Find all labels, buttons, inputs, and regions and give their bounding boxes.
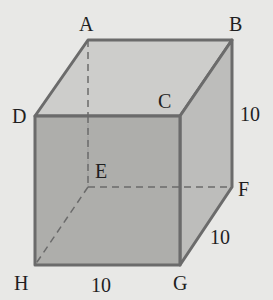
vertex-label-a: A: [79, 14, 93, 34]
vertex-label-e: E: [95, 161, 107, 181]
vertex-label-d: D: [12, 106, 26, 126]
vertex-label-g: G: [173, 273, 187, 293]
dimension-label-bf: 10: [240, 104, 260, 124]
dimension-label-gf: 10: [210, 227, 230, 247]
vertex-label-c: C: [158, 91, 171, 111]
cube-diagram: A B C D E F G H 10 10 10: [0, 0, 273, 300]
vertex-label-h: H: [14, 273, 28, 293]
dimension-label-hg: 10: [91, 275, 111, 295]
front-face-dcgh: [35, 116, 180, 265]
vertex-label-b: B: [229, 14, 242, 34]
vertex-label-f: F: [238, 179, 249, 199]
cube-drawing: [0, 0, 273, 300]
